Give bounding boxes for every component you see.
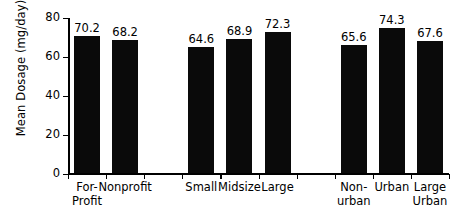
y-tick-label: 40 bbox=[20, 88, 60, 102]
y-tick-mark bbox=[63, 18, 68, 19]
category-label: Large bbox=[248, 181, 308, 195]
y-tick-mark bbox=[63, 135, 68, 136]
bar-value-label: 67.6 bbox=[405, 26, 455, 40]
bar-value-label: 68.2 bbox=[100, 25, 150, 39]
x-tick-mark bbox=[335, 174, 336, 179]
y-tick-label: 0 bbox=[20, 166, 60, 180]
y-tick-label: 20 bbox=[20, 127, 60, 141]
x-tick-mark bbox=[106, 174, 107, 179]
y-tick-mark bbox=[63, 57, 68, 58]
bar-value-label: 74.3 bbox=[367, 13, 417, 27]
bar bbox=[379, 28, 405, 173]
bar-chart: Mean Dosage (mg/day) 020406080 70.268.26… bbox=[0, 0, 471, 215]
y-tick-mark bbox=[63, 96, 68, 97]
bar bbox=[188, 47, 214, 173]
bar bbox=[341, 45, 367, 173]
x-tick-mark bbox=[449, 174, 450, 179]
bar bbox=[265, 32, 291, 173]
category-label: Large Urban bbox=[400, 181, 460, 208]
y-tick-label: 80 bbox=[20, 10, 60, 24]
bar bbox=[74, 36, 100, 173]
bar-value-label: 65.6 bbox=[329, 30, 379, 44]
x-tick-mark bbox=[68, 174, 69, 179]
plot-area: 020406080 70.268.264.668.972.365.674.367… bbox=[68, 18, 449, 174]
x-tick-mark bbox=[259, 174, 260, 179]
bar bbox=[417, 41, 443, 173]
x-tick-mark bbox=[297, 174, 298, 179]
category-label: Nonprofit bbox=[95, 181, 155, 195]
y-tick-label: 60 bbox=[20, 49, 60, 63]
bar bbox=[226, 39, 252, 173]
bar bbox=[112, 40, 138, 173]
x-tick-mark bbox=[411, 174, 412, 179]
bar-value-label: 72.3 bbox=[253, 17, 303, 31]
x-tick-mark bbox=[144, 174, 145, 179]
x-tick-mark bbox=[182, 174, 183, 179]
y-axis-line bbox=[68, 18, 70, 174]
x-tick-mark bbox=[373, 174, 374, 179]
x-tick-mark bbox=[220, 174, 221, 179]
